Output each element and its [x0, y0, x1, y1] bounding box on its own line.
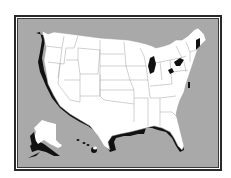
- us-map: [0, 0, 231, 178]
- alaska: [28, 120, 62, 158]
- hawaii: [59, 139, 98, 153]
- contiguous-us: [42, 28, 206, 150]
